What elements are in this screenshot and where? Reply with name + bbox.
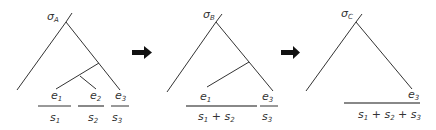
- right-arrow-icon: [281, 46, 300, 59]
- segment-label-s3: s3: [112, 111, 122, 125]
- panel-a-labels: σA e1 e2 e3 s1 s2 s3: [47, 10, 126, 125]
- tree-a-left-branch: [17, 22, 66, 90]
- right-arrow-icon: [132, 46, 152, 59]
- root-label-a: σA: [47, 10, 59, 24]
- tree-c-root-stub: [356, 14, 362, 22]
- leaf-label-e1: e1: [200, 90, 211, 104]
- segment-label-s1-s2-s3: s1 + s2 + s3: [358, 108, 421, 122]
- tree-a-branch-e1: [56, 63, 99, 89]
- leaf-label-e1: e1: [51, 89, 62, 103]
- tree-c-left-branch: [306, 22, 356, 91]
- segment-label-s1: s1: [50, 111, 60, 125]
- tree-a-right-branch: [66, 22, 120, 90]
- tree-a-root-stub: [66, 13, 72, 22]
- panel-c: [306, 14, 420, 103]
- leaf-label-e3: e3: [408, 88, 419, 102]
- root-label-c: σC: [341, 7, 353, 21]
- leaf-label-e3: e3: [262, 90, 273, 104]
- root-label-b: σB: [203, 8, 215, 22]
- tree-b-branch-e1: [207, 62, 249, 87]
- tree-b-right-branch: [216, 22, 273, 91]
- segment-label-s1-s2: s1 + s2: [198, 110, 235, 124]
- tree-c-right-branch: [356, 22, 412, 89]
- panel-a: [17, 13, 129, 106]
- leaf-label-e3: e3: [115, 89, 126, 103]
- segment-label-s3: s3: [262, 110, 272, 124]
- segment-label-s2: s2: [88, 111, 99, 125]
- tree-a-branch-e2: [80, 76, 96, 89]
- merge-diagram: σA e1 e2 e3 s1 s2 s3 σB e1 e3 s1 + s2 s3: [0, 0, 436, 130]
- tree-b-root-stub: [216, 14, 222, 22]
- leaf-label-e2: e2: [90, 89, 102, 103]
- tree-b-left-branch: [167, 22, 216, 92]
- panel-c-labels: σC e3 s1 + s2 + s3: [341, 7, 421, 122]
